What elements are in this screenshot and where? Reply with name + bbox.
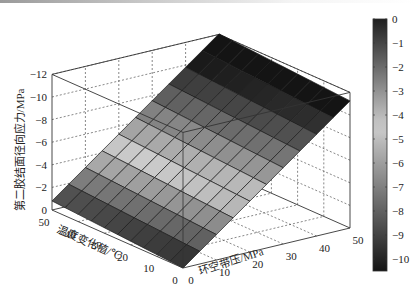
x-tick-label: 30 xyxy=(286,250,298,262)
y-tick-label: 50 xyxy=(39,216,51,228)
surface-mesh xyxy=(52,34,350,268)
z-tick-label: −10 xyxy=(30,91,48,103)
x-tick-label: 40 xyxy=(319,242,331,254)
colorbar-tick-label: −1 xyxy=(392,37,404,49)
x-tick-label: 0 xyxy=(188,274,194,286)
colorbar-tick-label: −10 xyxy=(392,253,410,265)
surface-plot: 0−2−4−6−8−10−12 01020304050 01020304050 … xyxy=(0,0,416,291)
z-tick-label: −12 xyxy=(30,68,47,80)
y-tick-label: 0 xyxy=(172,274,178,286)
colorbar-tick-label: −8 xyxy=(392,205,404,217)
colorbar-tick-label: 0 xyxy=(392,13,398,25)
colorbar-tick-label: −5 xyxy=(392,133,404,145)
z-axis-label: 第二胶结面径向应力/MPa xyxy=(13,88,26,211)
y-tick-label: 10 xyxy=(143,262,155,274)
z-tick-label: −6 xyxy=(35,136,47,148)
colorbar-tick-label: −6 xyxy=(392,157,404,169)
colorbar-tick-label: −4 xyxy=(392,109,404,121)
x-tick-label: 50 xyxy=(353,234,365,246)
z-axis-ticks: 0−2−4−6−8−10−12 xyxy=(30,68,48,216)
colorbar xyxy=(373,19,387,271)
z-tick-label: −2 xyxy=(35,181,47,193)
z-tick-label: −4 xyxy=(35,159,47,171)
colorbar-tick-label: −3 xyxy=(392,85,404,97)
colorbar-tick-label: −2 xyxy=(392,61,404,73)
z-tick-label: 0 xyxy=(42,204,48,216)
z-tick-label: −8 xyxy=(35,114,47,126)
colorbar-tick-label: −9 xyxy=(392,229,404,241)
colorbar-tick-label: −7 xyxy=(392,181,404,193)
